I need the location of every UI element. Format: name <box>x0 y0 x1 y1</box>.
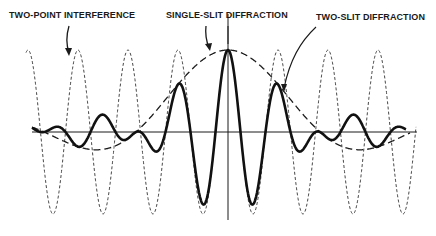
diagram-canvas <box>0 0 436 236</box>
single-slit-pointer-arrow <box>205 26 212 51</box>
two-slit-pointer-arrow <box>281 27 316 92</box>
two-slit-diffraction-label: TWO-SLIT DIFFRACTION <box>316 12 425 22</box>
two-point-interference-label: TWO-POINT INTERFERENCE <box>9 10 135 20</box>
two-slit-diffraction-curve <box>32 50 406 205</box>
diffraction-diagram: TWO-POINT INTERFERENCE SINGLE-SLIT DIFFR… <box>0 0 436 236</box>
single-slit-diffraction-label: SINGLE-SLIT DIFFRACTION <box>166 10 288 20</box>
two-point-pointer-arrow <box>65 26 72 56</box>
